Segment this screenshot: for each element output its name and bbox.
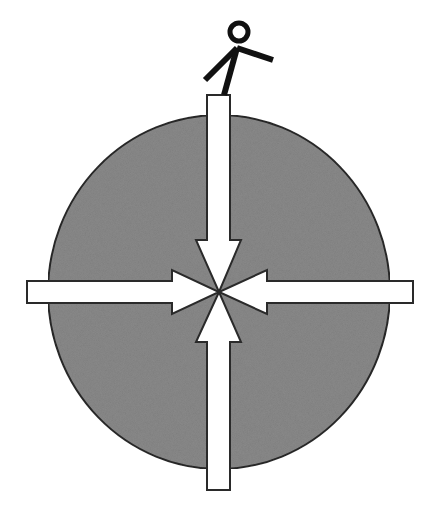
diagram-canvas — [0, 0, 438, 518]
figure-arm — [237, 48, 273, 60]
figure-head — [230, 23, 248, 41]
inward-arrows — [27, 95, 413, 490]
diagram-stage: Stick figure standing on a gray sphere w… — [0, 0, 438, 518]
stick-figure — [205, 23, 273, 95]
